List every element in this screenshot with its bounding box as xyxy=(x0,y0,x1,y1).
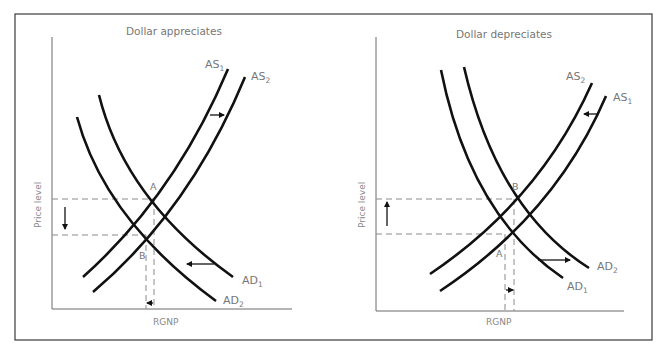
panel-title: Dollar appreciates xyxy=(126,25,222,37)
figure-frame xyxy=(15,14,652,340)
point-a-label: A xyxy=(150,181,157,192)
as1-label: AS1 xyxy=(613,91,633,106)
x-axis-label: RGNP xyxy=(153,317,179,327)
panel-title: Dollar depreciates xyxy=(456,28,552,40)
ad1-curve xyxy=(99,95,233,277)
as1-label: AS1 xyxy=(205,58,225,73)
economics-figure: Dollar appreciates Price level RGNP AS1 … xyxy=(0,0,661,355)
ad1-label: AD1 xyxy=(567,280,588,295)
as2-label: AS2 xyxy=(251,70,271,85)
point-a-label: A xyxy=(496,248,503,259)
as2-curve xyxy=(430,83,592,274)
ad2-label: AD2 xyxy=(597,260,618,275)
ad1-label: AD1 xyxy=(242,274,263,289)
as1-curve xyxy=(83,69,228,277)
point-b-label: B xyxy=(512,181,519,192)
y-axis-label: Price level xyxy=(33,182,43,228)
panel-dollar-depreciates: Dollar depreciates Price level RGNP AS2 … xyxy=(357,28,633,327)
x-axis-label: RGNP xyxy=(486,317,512,327)
as2-label: AS2 xyxy=(566,70,586,85)
panel-dollar-appreciates: Dollar appreciates Price level RGNP AS1 … xyxy=(33,25,292,327)
ad2-label: AD2 xyxy=(223,294,244,309)
point-b-label: B xyxy=(139,250,146,261)
y-axis-label: Price level xyxy=(357,182,367,228)
as2-curve xyxy=(93,77,245,292)
ad2-curve xyxy=(464,67,589,268)
